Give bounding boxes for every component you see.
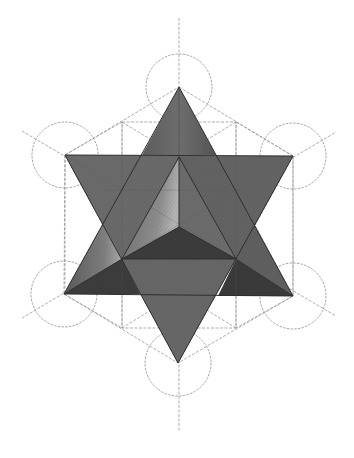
cube-edge (236, 122, 293, 156)
star-tetrahedron (64, 87, 293, 363)
star-tetrahedron-diagram (0, 0, 354, 458)
cube-edge (64, 294, 122, 328)
